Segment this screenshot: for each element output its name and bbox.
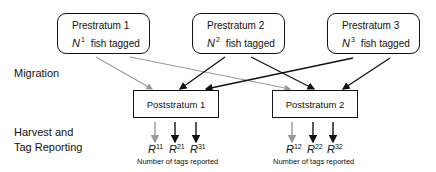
n-sup: 3 [351, 36, 355, 43]
prestratum-title: Prestratum 3 [342, 20, 399, 31]
arrow-pre1-post1 [96, 57, 152, 89]
tagged-count: N1fish tagged [72, 37, 140, 49]
prestratum-3-box: Prestratum 3 N3fish tagged [327, 13, 420, 54]
report-r12: R12 [286, 143, 302, 155]
report-r21: R21 [169, 143, 185, 155]
report-r11: R11 [148, 143, 163, 155]
poststratum-1-box: Poststratum 1 [133, 90, 219, 118]
report-r32: R32 [327, 143, 343, 155]
n-var: N [72, 37, 80, 49]
prestratum-1-box: Prestratum 1 N1fish tagged [57, 13, 150, 54]
n-var: N [342, 37, 350, 49]
arrow-pre2-post1 [180, 57, 225, 89]
report-r31: R31 [190, 143, 206, 155]
arrow-pre1-post2 [130, 57, 290, 89]
poststratum-2-box: Poststratum 2 [272, 90, 358, 118]
harvest-label-line1: Harvest and [14, 125, 73, 140]
tagged-suffix: fish tagged [91, 38, 140, 49]
report-r22: R22 [307, 143, 323, 155]
n-var: N [207, 37, 215, 49]
tagged-suffix: fish tagged [361, 38, 410, 49]
tagged-suffix: fish tagged [226, 38, 275, 49]
tags-reported-caption-2: Number of tags reported [273, 157, 354, 166]
migration-label: Migration [14, 66, 59, 81]
tagged-count: N2fish tagged [207, 37, 275, 49]
n-sup: 1 [81, 36, 85, 43]
tagged-count: N3fish tagged [342, 37, 410, 49]
arrow-pre3-post1 [206, 58, 353, 89]
prestratum-title: Prestratum 1 [72, 20, 129, 31]
n-sup: 2 [216, 36, 220, 43]
arrow-pre3-post2 [343, 58, 390, 89]
prestratum-2-box: Prestratum 2 N2fish tagged [192, 13, 285, 54]
tags-reported-caption-1: Number of tags reported [137, 157, 218, 166]
harvest-label-line2: Tag Reporting [14, 140, 83, 155]
prestratum-title: Prestratum 2 [207, 20, 264, 31]
